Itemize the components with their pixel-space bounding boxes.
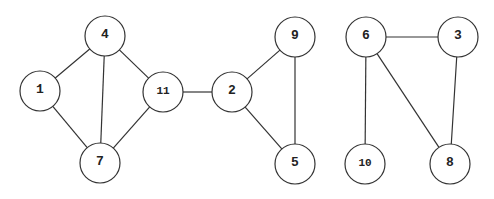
- node-8: 8: [430, 144, 470, 184]
- edge-6-10: [365, 57, 366, 144]
- node-9: 9: [275, 17, 315, 57]
- node-label: 3: [454, 28, 462, 43]
- edge-1-7: [53, 106, 87, 147]
- node-2: 2: [212, 72, 252, 112]
- edge-4-1: [55, 49, 89, 78]
- node-7: 7: [80, 143, 120, 183]
- nodes: 4111729563108: [20, 16, 478, 184]
- node-4: 4: [85, 16, 125, 56]
- node-label: 2: [228, 83, 236, 98]
- node-10: 10: [345, 144, 385, 184]
- edge-4-11: [119, 50, 148, 78]
- edge-3-8: [451, 57, 456, 144]
- edge-6-8: [377, 54, 439, 148]
- node-label: 5: [291, 155, 299, 170]
- node-label: 4: [101, 27, 109, 42]
- node-label: 11: [156, 85, 170, 97]
- node-label: 10: [358, 157, 371, 169]
- node-label: 6: [362, 28, 370, 43]
- node-label: 7: [96, 154, 104, 169]
- node-6: 6: [346, 17, 386, 57]
- node-label: 1: [36, 82, 44, 97]
- edge-4-7: [101, 56, 104, 143]
- edge-2-5: [245, 107, 282, 149]
- node-3: 3: [438, 17, 478, 57]
- graph-diagram: 4111729563108: [0, 0, 494, 199]
- edge-2-9: [247, 50, 280, 79]
- node-11: 11: [143, 72, 183, 112]
- node-label: 9: [291, 28, 299, 43]
- node-label: 8: [446, 155, 454, 170]
- node-1: 1: [20, 71, 60, 111]
- node-5: 5: [275, 144, 315, 184]
- edge-11-7: [113, 107, 149, 148]
